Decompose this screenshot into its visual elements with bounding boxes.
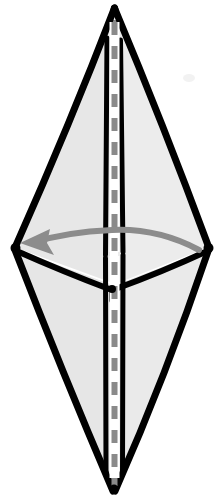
vertex-top-apex — [111, 6, 119, 14]
bipyramid-diagram — [0, 0, 221, 502]
vertex-right — [204, 243, 214, 253]
edge-front-vertical-right-lower — [123, 255, 124, 474]
vertex-left — [11, 243, 21, 253]
figure-root: Hand-drawn style hexagonal bipyramid (el… — [0, 0, 221, 502]
edge-front-vertical-right-upper — [121, 40, 124, 252]
face-upper-right — [114, 10, 209, 283]
edge-front-vertical-left-upper — [106, 38, 108, 255]
paper-speck — [183, 74, 195, 82]
vertex-front — [108, 285, 116, 293]
vertex-bottom-apex — [110, 485, 119, 494]
edge-front-vertical-left-lower — [106, 258, 107, 474]
